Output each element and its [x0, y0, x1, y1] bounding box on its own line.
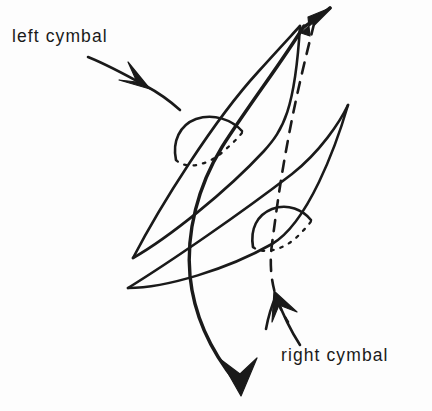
label-right-cymbal: right cymbal: [281, 345, 389, 366]
right-cymbal-disc: [128, 105, 348, 288]
right-cymbal-bell: [252, 207, 312, 251]
top-arrowhead: [301, 8, 330, 36]
right-leader-arrow: [266, 291, 300, 345]
bottom-arrowhead: [220, 358, 257, 396]
left-cymbal-bell: [175, 117, 243, 166]
left-leader-arrow: [88, 57, 180, 110]
label-left-cymbal: left cymbal: [12, 26, 108, 47]
cymbal-motion-figure: left cymbal right cymbal: [0, 0, 432, 411]
